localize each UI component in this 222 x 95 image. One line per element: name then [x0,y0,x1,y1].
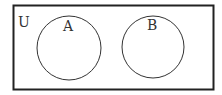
universe-label: U [18,14,30,30]
venn-diagram: U A B [0,0,222,95]
set-a-label: A [62,18,74,34]
set-b-label: B [147,17,157,33]
